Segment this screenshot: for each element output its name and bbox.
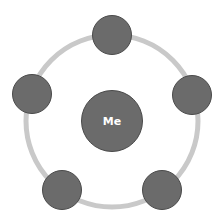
node-bottom-left <box>43 171 82 210</box>
network-diagram: Me <box>0 0 220 221</box>
node-bottom-right <box>143 171 182 210</box>
node-right <box>173 76 212 115</box>
node-left <box>13 75 52 114</box>
center-node-label: Me <box>103 115 121 128</box>
node-top <box>93 16 132 55</box>
